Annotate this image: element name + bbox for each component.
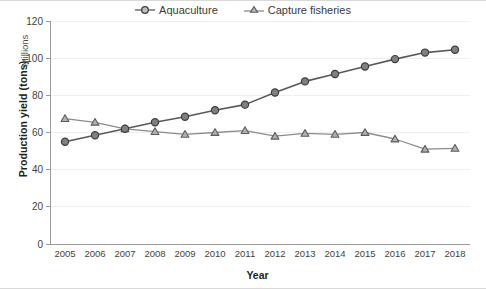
x-tick-label: 2013: [294, 248, 315, 259]
x-tick-label: 2016: [384, 248, 405, 259]
y-tick-label: 120: [26, 16, 43, 27]
y-tick-label: 0: [37, 239, 43, 250]
data-point-triangle: Capture fisheries 2005: 67.5: [61, 115, 69, 122]
plot-area: 020406080100120 200520062007200820092010…: [0, 1, 486, 289]
data-point-circle: Aquaculture 2013: 87.5: [301, 78, 308, 85]
x-axis: 2005200620072008200920102011201220132014…: [50, 244, 470, 259]
data-point-circle: Aquaculture 2008: 65.5: [151, 119, 158, 126]
x-tick-label: 2012: [264, 248, 285, 259]
data-point-circle: Aquaculture 2006: 58.5: [91, 132, 98, 139]
series-line: [65, 119, 455, 150]
x-tick-label: 2006: [84, 248, 105, 259]
data-point-circle: Aquaculture 2015: 95.5: [361, 63, 368, 70]
x-tick-label: 2015: [354, 248, 375, 259]
x-tick-label: 2005: [54, 248, 75, 259]
y-tick-label: 40: [32, 164, 44, 175]
gridlines: [50, 21, 470, 207]
y-tick-label: 100: [26, 53, 43, 64]
data-point-circle: Aquaculture 2014: 91.5: [331, 70, 338, 77]
data-point-circle: Aquaculture 2012: 81.5: [271, 89, 278, 96]
line-chart-figure: Aquaculture Capture fisheries Production…: [0, 0, 486, 289]
x-tick-label: 2014: [324, 248, 345, 259]
x-tick-label: 2011: [235, 248, 255, 259]
x-tick-label: 2009: [174, 248, 195, 259]
x-tick-label: 2018: [444, 248, 465, 259]
data-point-circle: Aquaculture 2005: 55: [61, 138, 68, 145]
x-tick-label: 2008: [144, 248, 165, 259]
y-tick-label: 20: [32, 201, 44, 212]
y-axis: 020406080100120: [26, 16, 50, 250]
series-capture-fisheries: Capture fisheries 2005: 67.5Capture fish…: [61, 115, 459, 152]
y-tick-label: 60: [32, 127, 44, 138]
data-point-circle: Aquaculture 2016: 99.5: [391, 56, 398, 63]
data-point-circle: Aquaculture 2011: 75: [241, 101, 248, 108]
data-point-circle: Aquaculture 2007: 62: [121, 125, 128, 132]
data-point-circle: Aquaculture 2009: 68.5: [181, 113, 188, 120]
x-tick-label: 2010: [204, 248, 225, 259]
x-tick-label: 2017: [414, 248, 435, 259]
y-tick-label: 80: [32, 90, 44, 101]
x-tick-label: 2007: [114, 248, 135, 259]
data-point-circle: Aquaculture 2018: 104.5: [451, 46, 458, 53]
data-point-circle: Aquaculture 2010: 72: [211, 107, 218, 114]
data-point-circle: Aquaculture 2017: 103: [421, 49, 428, 56]
